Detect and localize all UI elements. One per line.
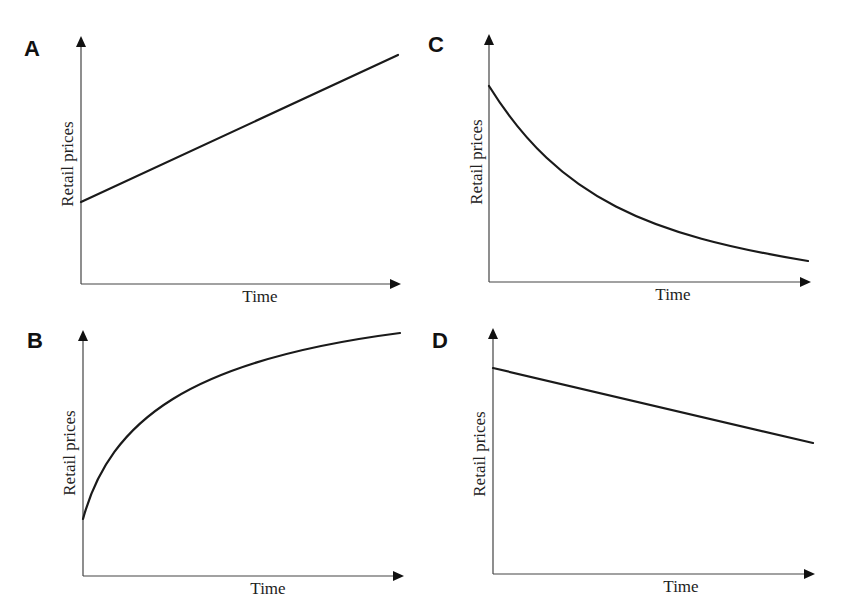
panel-b: B Retail prices Time	[27, 328, 404, 598]
price-curve-c	[489, 86, 808, 261]
y-axis-arrow-icon	[76, 36, 86, 47]
panel-a: A Retail prices Time	[24, 36, 401, 306]
price-line-a	[81, 55, 398, 202]
panel-label-c: C	[428, 32, 444, 57]
y-axis-arrow-icon	[484, 34, 494, 45]
x-axis-arrow-icon	[800, 277, 811, 287]
x-axis-label-a: Time	[242, 287, 277, 306]
panel-c: C Retail prices Time	[428, 32, 811, 304]
price-line-d	[493, 368, 813, 443]
panel-label-b: B	[27, 328, 43, 353]
y-axis-label-b: Retail prices	[60, 410, 79, 495]
y-axis-label-d: Retail prices	[470, 411, 489, 496]
panel-label-a: A	[24, 36, 40, 61]
x-axis-label-c: Time	[655, 285, 690, 304]
x-axis-arrow-icon	[390, 279, 401, 289]
x-axis-arrow-icon	[393, 571, 404, 581]
panel-d: D Retail prices Time	[432, 328, 815, 596]
y-axis-arrow-icon	[78, 330, 88, 341]
four-panel-price-graphs: A Retail prices Time C Retail prices Tim…	[0, 0, 847, 611]
y-axis-label-a: Retail prices	[58, 121, 77, 206]
price-curve-b	[83, 333, 400, 519]
x-axis-arrow-icon	[804, 569, 815, 579]
x-axis-label-b: Time	[250, 579, 285, 598]
y-axis-label-c: Retail prices	[467, 119, 486, 204]
panel-label-d: D	[432, 328, 448, 353]
x-axis-label-d: Time	[663, 577, 698, 596]
y-axis-arrow-icon	[488, 328, 498, 339]
